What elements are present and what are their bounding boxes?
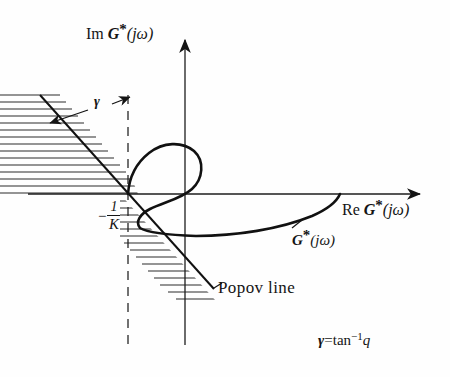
- popov-plot-figure: Im G*(jω) Re G*(jω) G*(jω) Popov line γ …: [0, 0, 450, 377]
- x-axis-label-arg: (jω): [383, 201, 409, 218]
- gamma-equation-fn: tan: [333, 332, 351, 348]
- x-axis-label-operator: Re: [342, 201, 360, 218]
- y-axis-label-symbol: G: [108, 25, 120, 42]
- popov-line-label: Popov line: [218, 279, 295, 296]
- x-axis-label: Re G*(jω): [342, 198, 409, 218]
- curve-label-arg: (jω): [310, 232, 335, 248]
- critical-point-label: − 1 K: [98, 200, 120, 232]
- y-axis-label-star: *: [119, 21, 127, 37]
- y-axis-label-arg: (jω): [127, 25, 153, 42]
- y-axis-label-operator: Im: [86, 25, 104, 42]
- curve-label-symbol: G: [292, 232, 303, 248]
- gamma-equation: γ=tan−1q: [318, 331, 370, 348]
- gamma-equation-equals: =: [324, 332, 332, 348]
- critical-point-denominator: K: [109, 216, 119, 232]
- critical-point-numerator: 1: [108, 200, 119, 215]
- plot-canvas: [0, 0, 450, 377]
- gamma-equation-arg: q: [363, 332, 371, 348]
- g-star-locus-curve: [128, 144, 340, 236]
- critical-point-minus: −: [98, 209, 106, 224]
- x-axis-label-symbol: G: [364, 201, 376, 218]
- y-axis-label: Im G*(jω): [86, 22, 153, 42]
- x-axis-label-star: *: [375, 197, 383, 213]
- gamma-label: γ: [94, 95, 100, 109]
- curve-label: G*(jω): [292, 228, 335, 248]
- gamma-angle-arrow-right: [112, 97, 130, 104]
- critical-point-fraction: 1 K: [107, 200, 120, 232]
- hatch-region-upper: [0, 95, 144, 193]
- gamma-equation-exponent: −1: [351, 330, 363, 342]
